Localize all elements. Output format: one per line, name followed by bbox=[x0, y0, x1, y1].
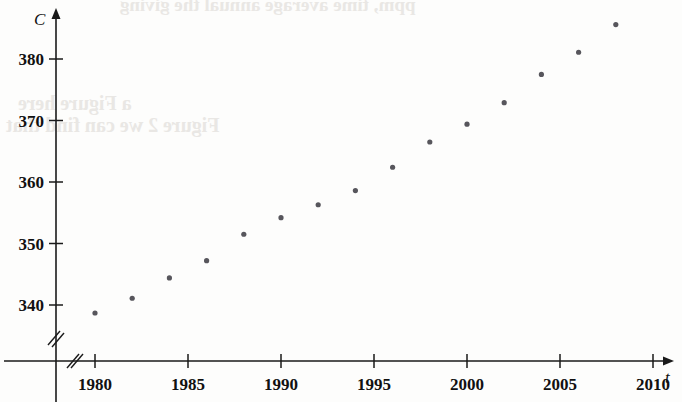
data-point bbox=[464, 122, 469, 127]
x-tick-label: 1990 bbox=[264, 375, 298, 394]
x-axis bbox=[4, 354, 674, 368]
data-point bbox=[278, 215, 283, 220]
scatter-plot-figure: ppm, time average annual the giving a Fi… bbox=[0, 0, 682, 402]
y-tick-label: 340 bbox=[19, 296, 45, 315]
y-tick-label: 370 bbox=[19, 112, 45, 131]
data-point bbox=[427, 139, 432, 144]
y-tick-label: 350 bbox=[19, 235, 45, 254]
x-axis-ticks: 1980198519901995200020052010 bbox=[78, 354, 670, 394]
data-point bbox=[353, 188, 358, 193]
data-point bbox=[576, 50, 581, 55]
data-point bbox=[241, 232, 246, 237]
data-point bbox=[167, 275, 172, 280]
data-point-group bbox=[92, 22, 618, 316]
y-axis-arrowhead bbox=[52, 8, 61, 19]
x-tick-label: 2005 bbox=[543, 375, 577, 394]
y-axis-label: C bbox=[34, 10, 46, 29]
data-point bbox=[92, 310, 97, 315]
x-tick-label: 2000 bbox=[450, 375, 484, 394]
data-point bbox=[316, 202, 321, 207]
data-point bbox=[130, 296, 135, 301]
y-axis bbox=[48, 8, 64, 402]
data-point bbox=[390, 165, 395, 170]
x-tick-label: 1985 bbox=[171, 375, 205, 394]
y-tick-label: 360 bbox=[19, 173, 45, 192]
x-tick-label: 1995 bbox=[357, 375, 391, 394]
x-axis-label: t bbox=[665, 368, 671, 387]
data-point bbox=[613, 22, 618, 27]
x-tick-label: 1980 bbox=[78, 375, 112, 394]
data-point bbox=[204, 258, 209, 263]
x-axis-arrowhead bbox=[663, 357, 674, 366]
chart-canvas: 340350360370380 198019851990199520002005… bbox=[0, 0, 682, 402]
data-point bbox=[539, 72, 544, 77]
data-point bbox=[502, 100, 507, 105]
y-tick-label: 380 bbox=[19, 50, 45, 69]
